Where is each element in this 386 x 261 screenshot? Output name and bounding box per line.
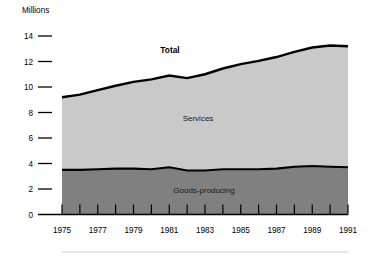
goods-series-label: Goods-producing [173,186,234,195]
total-series-label: Total [160,45,179,55]
y-tick-label: 14 [24,32,34,41]
y-tick-label: 8 [28,109,33,118]
stacked-area-chart: 14121086420 1975197719791981198319851987… [0,0,386,261]
y-axis-unit-label: Millions [22,6,49,15]
x-tick-label: 1975 [53,226,72,235]
x-tick-label: 1983 [196,226,215,235]
x-tick-label: 1989 [303,226,322,235]
y-tick-label: 2 [28,185,33,194]
chart-container: 14121086420 1975197719791981198319851987… [0,0,386,261]
x-tick-label: 1987 [267,226,286,235]
x-tick-label: 1979 [124,226,143,235]
x-tick-label: 1981 [160,226,179,235]
x-tick-label: 1991 [339,226,358,235]
y-tick-label: 4 [28,160,33,169]
y-tick-label: 6 [28,134,33,143]
y-tick-label: 12 [24,58,34,67]
x-tick-label: 1977 [89,226,108,235]
y-tick-label: 0 [28,211,33,220]
x-tick-label: 1985 [232,226,251,235]
services-series-label: Services [183,114,214,123]
y-tick-label: 10 [24,83,34,92]
